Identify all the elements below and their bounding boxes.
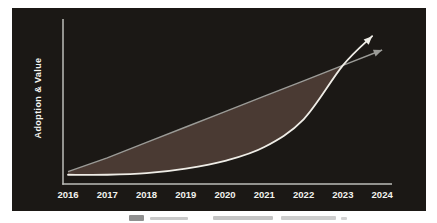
chart-plot-area: Adoption & Value 20162017201820192020202… (12, 8, 426, 211)
x-tick-label: 2021 (254, 189, 275, 200)
x-tick-label: 2018 (136, 189, 157, 200)
x-tick-label: 2016 (57, 189, 78, 200)
caption-fragment (341, 217, 347, 220)
caption-fragment (150, 217, 188, 220)
linear-arrow-head-icon (373, 50, 382, 57)
y-axis-label: Adoption & Value (33, 58, 43, 139)
adoption-value-chart (12, 8, 426, 211)
x-tick-label: 2017 (97, 189, 118, 200)
caption-fragment (213, 216, 273, 220)
x-tick-label: 2020 (215, 189, 236, 200)
x-tick-label: 2019 (175, 189, 196, 200)
x-tick-label: 2022 (293, 189, 314, 200)
caption-fragment (129, 215, 144, 221)
x-tick-label: 2023 (332, 189, 353, 200)
x-tick-label: 2024 (372, 189, 393, 200)
caption-fragment (281, 216, 336, 220)
